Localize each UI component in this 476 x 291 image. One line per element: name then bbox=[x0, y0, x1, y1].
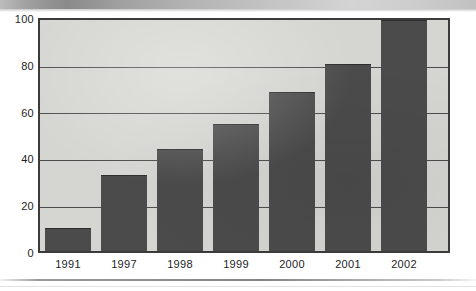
bars-layer bbox=[40, 20, 448, 251]
y-tick-label-40: 40 bbox=[0, 153, 34, 165]
page-divider-rule-secondary bbox=[0, 286, 476, 287]
x-tick-label-1997: 1997 bbox=[111, 258, 137, 270]
bar-1997 bbox=[101, 175, 147, 251]
x-tick-label-2002: 2002 bbox=[391, 258, 417, 270]
y-tick-label-20: 20 bbox=[0, 200, 34, 212]
y-tick-label-100: 100 bbox=[0, 13, 34, 25]
bar-chart: 100 80 60 40 20 0 1991 1997 1998 1999 20… bbox=[0, 0, 476, 291]
bar-2000 bbox=[269, 92, 315, 251]
bar-2002 bbox=[381, 20, 427, 251]
x-tick-label-1998: 1998 bbox=[167, 258, 193, 270]
bar-1999 bbox=[213, 124, 259, 251]
bar-1998 bbox=[157, 149, 203, 251]
page-divider-rule bbox=[0, 279, 476, 281]
x-tick-label-1999: 1999 bbox=[223, 258, 249, 270]
y-tick-label-0: 0 bbox=[0, 247, 34, 259]
x-tick-label-2001: 2001 bbox=[335, 258, 361, 270]
x-tick-label-2000: 2000 bbox=[279, 258, 305, 270]
plot-area bbox=[38, 18, 450, 253]
bar-1991 bbox=[45, 228, 91, 251]
y-axis: 100 80 60 40 20 0 bbox=[0, 0, 34, 291]
x-axis: 1991 1997 1998 1999 2000 2001 2002 bbox=[38, 258, 450, 278]
y-tick-label-60: 60 bbox=[0, 107, 34, 119]
bar-2001 bbox=[325, 64, 371, 251]
x-tick-label-1991: 1991 bbox=[55, 258, 81, 270]
y-tick-label-80: 80 bbox=[0, 60, 34, 72]
